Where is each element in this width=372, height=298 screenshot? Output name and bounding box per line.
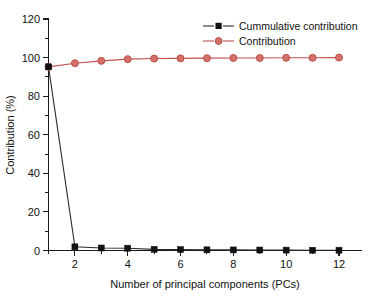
legend-label-cummulative-contribution: Cummulative contribution — [239, 20, 358, 32]
y-tick-label: 80 — [28, 90, 40, 102]
y-tick-label: 40 — [28, 167, 40, 179]
data-point-cummulative-contribution — [98, 245, 104, 251]
x-tick-label: 6 — [177, 258, 183, 270]
data-point-cummulative-contribution — [230, 247, 236, 253]
data-point-contribution — [203, 55, 210, 62]
data-point-contribution — [256, 54, 263, 61]
data-point-cummulative-contribution — [310, 247, 316, 253]
y-tick-label: 100 — [22, 52, 40, 64]
y-axis-title: Contribution (%) — [4, 95, 16, 174]
x-tick-label: 4 — [125, 258, 131, 270]
x-tick-label: 2 — [72, 258, 78, 270]
data-point-contribution — [98, 57, 105, 64]
data-point-cummulative-contribution — [72, 244, 78, 250]
chart-figure: 020406080100120 24681012 Number of princ… — [0, 0, 372, 298]
x-tick-label: 12 — [333, 258, 345, 270]
legend-label-contribution: Contribution — [239, 35, 296, 47]
data-point-contribution — [283, 54, 290, 61]
y-tick-label: 20 — [28, 206, 40, 218]
data-point-contribution — [309, 54, 316, 61]
data-point-cummulative-contribution — [336, 247, 342, 253]
y-tick-label: 60 — [28, 129, 40, 141]
data-point-cummulative-contribution — [178, 247, 184, 253]
data-point-cummulative-contribution — [46, 64, 52, 70]
data-point-contribution — [124, 56, 131, 63]
circle-marker-icon — [215, 38, 222, 45]
data-point-cummulative-contribution — [204, 247, 210, 253]
data-point-cummulative-contribution — [257, 247, 263, 253]
chart-background — [0, 0, 372, 298]
x-tick-label: 10 — [280, 258, 292, 270]
data-point-cummulative-contribution — [283, 247, 289, 253]
square-marker-icon — [216, 23, 222, 29]
data-point-contribution — [230, 54, 237, 61]
x-tick-label: 8 — [230, 258, 236, 270]
data-point-contribution — [71, 60, 78, 67]
data-point-cummulative-contribution — [125, 245, 131, 251]
y-tick-label: 120 — [22, 13, 40, 25]
x-axis-title: Number of principal components (PCs) — [110, 278, 300, 290]
data-point-contribution — [336, 54, 343, 61]
y-tick-label: 0 — [34, 245, 40, 257]
data-point-cummulative-contribution — [151, 246, 157, 252]
data-point-contribution — [151, 55, 158, 62]
line-chart-canvas: 020406080100120 24681012 Number of princ… — [0, 0, 372, 298]
data-point-contribution — [177, 55, 184, 62]
